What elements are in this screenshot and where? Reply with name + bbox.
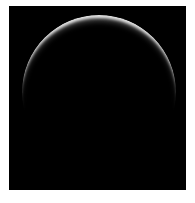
image-frame — [9, 6, 186, 190]
dark-sphere — [23, 16, 175, 168]
